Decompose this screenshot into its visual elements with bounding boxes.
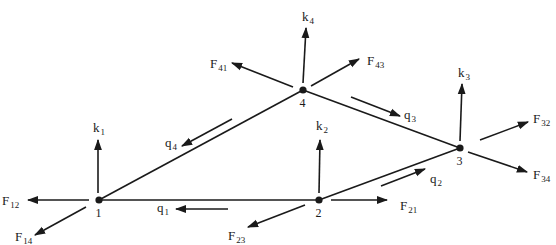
force-label-12: F12 — [2, 193, 19, 210]
force-arrow-icon — [232, 63, 293, 87]
force-arrow-icon — [311, 59, 359, 86]
capacitie-label-2: k2 — [316, 118, 328, 135]
node-2-label: 2 — [316, 206, 322, 220]
node-4-label: 4 — [300, 96, 306, 110]
nodes-layer — [95, 86, 463, 203]
network-diagram: q1q2q3q4k1k2k3k4F12F14F21F23F32F34F41F43… — [0, 0, 556, 245]
node-3-dot-icon — [456, 144, 463, 151]
force-label-34: F34 — [533, 167, 551, 184]
node-2-dot-icon — [315, 196, 322, 203]
node-4-dot-icon — [299, 86, 306, 93]
force-label-32: F32 — [533, 111, 550, 128]
flow-label-4: q4 — [165, 135, 178, 152]
edge-2-3 — [319, 148, 460, 200]
force-label-41: F41 — [210, 56, 227, 73]
diagram-canvas: q1q2q3q4k1k2k3k4F12F14F21F23F32F34F41F43… — [0, 0, 556, 245]
flow-label-2: q2 — [430, 171, 442, 188]
force-label-21: F21 — [400, 198, 417, 215]
force-label-43: F43 — [367, 53, 385, 70]
capacitie-label-4: k4 — [302, 9, 315, 26]
force-arrow-icon — [35, 207, 86, 235]
flow-arrow-icon — [381, 169, 425, 186]
flow-arrow-icon — [351, 97, 400, 116]
edge-4-1 — [99, 90, 303, 200]
capacitie-arrow-icon — [303, 28, 306, 83]
force-arrow-icon — [468, 152, 527, 172]
flow-label-3: q3 — [404, 107, 417, 124]
force-arrow-icon — [480, 122, 528, 140]
edge-3-4 — [303, 90, 460, 148]
node-1-label: 1 — [96, 206, 102, 220]
labels-layer: q1q2q3q4k1k2k3k4F12F14F21F23F32F34F41F43… — [2, 9, 551, 245]
node-3-label: 3 — [457, 154, 463, 168]
force-label-14: F14 — [15, 229, 33, 245]
capacitie-arrow-icon — [460, 84, 462, 141]
force-label-23: F23 — [228, 228, 246, 245]
flow-label-1: q1 — [157, 200, 169, 217]
node-1-dot-icon — [95, 196, 102, 203]
capacitie-label-3: k3 — [458, 65, 471, 82]
capacitie-arrow-icon — [319, 140, 320, 193]
capacitie-label-1: k1 — [93, 120, 105, 137]
force-arrow-icon — [248, 205, 305, 227]
